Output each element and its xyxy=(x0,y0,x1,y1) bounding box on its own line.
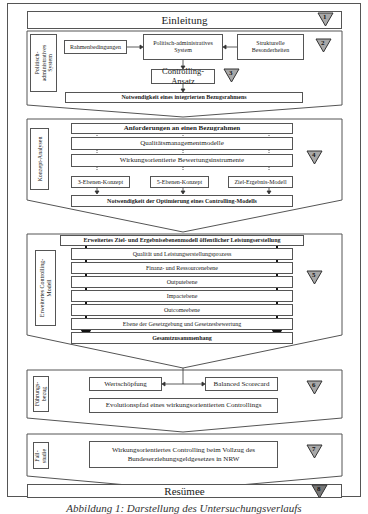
box-politisch-administratives-system: Politisch-administratives System xyxy=(143,34,223,60)
side-label-fuehrungsbezug: Führungs- bezug xyxy=(33,376,49,412)
side-label-konzept-analysen: Konzept-Analysen xyxy=(30,128,49,190)
level-outputebene: Outputebene xyxy=(71,276,293,288)
box-strukturelle-besonderheiten: Strukturelle Besonderheiten xyxy=(237,34,304,60)
chapter-badge-8: 8 xyxy=(311,484,328,499)
side-label-erweitertes-controlling-modell: Erweitertes Controlling- Modell xyxy=(35,250,56,326)
box-wertschoepfung: Wertschöpfung xyxy=(89,377,162,391)
side-label-fallstudie: Fall- studie xyxy=(33,442,49,469)
box-fallstudie-text: Wirkungsorientiertes Controlling beim Vo… xyxy=(89,441,278,468)
chapter-badge-5: 5 xyxy=(306,270,323,285)
level-gesamtzusammenhang: Gesamtzusammenhang xyxy=(71,332,293,344)
box-controlling-ansatz: Controlling-Ansatz xyxy=(151,69,215,84)
box-erweitertes-ziel-ergebnisebenenmodell: Erweitertes Ziel- und Ergebnisebenenmode… xyxy=(60,235,304,246)
side-label-politisch: Politisch- administratives System xyxy=(30,34,57,92)
chapter-badge-7: 7 xyxy=(306,444,323,459)
box-qualitaetsmanagementmodelle: Qualitätsmanagementmodelle xyxy=(71,137,293,150)
box-anforderungen: Anforderungen an einen Bezugrahmen xyxy=(71,123,293,134)
chapter-badge-6: 6 xyxy=(306,380,323,395)
box-balanced-scorecard: Balanced Scorecard xyxy=(205,377,278,391)
chapter-badge-4: 4 xyxy=(306,150,323,165)
box-rahmenbedingungen: Rahmenbedingungen xyxy=(64,40,127,54)
box-notwendigkeit-optimierung: Notwendigkeit der Optimierung eines Cont… xyxy=(71,195,293,207)
box-wirkungsorientierte-bewertungsinstrumente: Wirkungsorientierte Bewertungsinstrument… xyxy=(71,154,293,167)
level-finanz-ressourcenebene: Finanz- und Ressourcenebene xyxy=(71,262,293,274)
box-ziel-ergebnis-modell: Ziel-Ergebnis-Modell xyxy=(228,176,293,188)
box-notwendigkeit-bezugsrahmen: Notwendigkeit eines integrierten Bezugsr… xyxy=(65,92,303,103)
level-qualitaet-leistungserstellungsprozess: Qualität und Leistungserstellungsprozess xyxy=(71,248,293,260)
section-einleitung: Einleitung xyxy=(27,11,342,29)
level-impactebene: Impactebene xyxy=(71,290,293,302)
chapter-badge-3: 3 xyxy=(223,68,240,83)
level-outcomeebene: Outcomeebene xyxy=(71,304,293,316)
level-gesetzgebung-gesetzesbewertung: Ebene der Gesetzgebung und Gesetzesbewer… xyxy=(71,318,293,330)
box-3-ebenen-konzept: 3-Ebenen-Konzept xyxy=(71,176,130,188)
box-5-ebenen-konzept: 5-Ebenen-Konzept xyxy=(150,176,209,188)
chapter-badge-2: 2 xyxy=(315,38,332,53)
box-evolutionspfad: Evolutionspfad eines wirkungsorientierte… xyxy=(89,398,278,413)
section-resuemee: Resümee xyxy=(27,484,342,498)
einleitung-title: Einleitung xyxy=(162,14,208,27)
figure-caption: Abbildung 1: Darstellung des Untersuchun… xyxy=(0,502,368,514)
chapter-badge-1: 1 xyxy=(317,12,334,27)
